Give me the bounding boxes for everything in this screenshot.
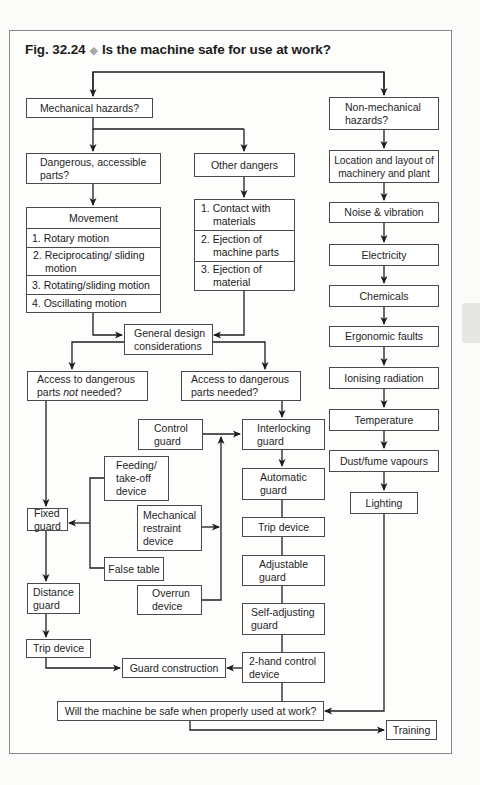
other-danger-item-2: 2. Ejection of machine parts: [195, 230, 294, 261]
node-ergonomic-faults: Ergonomic faults: [329, 326, 439, 347]
other-danger-item-1: 1. Contact with materials: [195, 200, 294, 230]
movement-item-4: 4. Oscillating motion: [27, 294, 160, 312]
node-chemicals: Chemicals: [329, 285, 439, 307]
node-two-hand-control-device: 2-hand control device: [242, 652, 325, 683]
node-dust-fume-vapours: Dust/fume vapours: [329, 450, 439, 472]
node-distance-guard: Distance guard: [27, 583, 80, 614]
movement-header: Movement: [27, 208, 160, 228]
other-danger-item-3: 3. Ejection of material: [195, 261, 294, 290]
node-feeding-takeoff-device: Feeding/ take-off device: [104, 456, 169, 501]
node-access-needed: Access to dangerous parts needed?: [181, 371, 301, 401]
node-self-adjusting-guard: Self-adjusting guard: [242, 603, 325, 635]
node-noise-vibration: Noise & vibration: [329, 202, 439, 223]
node-dangerous-accessible-parts: Dangerous, accessible parts?: [26, 153, 161, 184]
movement-item-1: 1. Rotary motion: [27, 228, 160, 247]
node-interlocking-guard: Interlocking guard: [242, 419, 325, 450]
node-temperature: Temperature: [329, 409, 439, 431]
access-not-needed-text: Access to dangerous parts not needed?: [37, 373, 142, 399]
node-other-dangers: Other dangers: [194, 153, 295, 177]
other-dangers-list: 1. Contact with materials 2. Ejection of…: [194, 199, 295, 291]
node-trip-device-left: Trip device: [26, 639, 91, 658]
node-fixed-guard: Fixed guard: [27, 508, 68, 531]
node-general-design: General design considerations: [124, 324, 213, 355]
movement-table: Movement 1. Rotary motion 2. Reciprocati…: [26, 207, 161, 313]
node-ionising-radiation: Ionising radiation: [329, 367, 439, 389]
node-lighting: Lighting: [350, 492, 418, 514]
node-access-not-needed: Access to dangerous parts not needed?: [27, 371, 148, 401]
node-false-table: False table: [104, 557, 164, 581]
node-adjustable-guard: Adjustable guard: [242, 555, 325, 586]
node-overrun-device: Overrun device: [137, 585, 202, 615]
node-non-mechanical-hazards: Non-mechanical hazards?: [329, 97, 439, 130]
node-automatic-guard: Automatic guard: [242, 468, 325, 500]
movement-item-3: 3. Rotating/sliding motion: [27, 275, 160, 294]
movement-item-2: 2. Reciprocating/ sliding motion: [27, 247, 160, 275]
node-control-guard: Control guard: [138, 419, 203, 450]
node-training: Training: [386, 720, 437, 740]
node-mechanical-hazards: Mechanical hazards?: [26, 98, 153, 118]
node-electricity: Electricity: [329, 244, 439, 266]
node-mechanical-restraint-device: Mechanical restraint device: [137, 505, 202, 551]
node-guard-construction: Guard construction: [122, 658, 226, 678]
node-trip-device-right: Trip device: [242, 517, 325, 537]
node-location-layout: Location and layout of machinery and pla…: [329, 150, 439, 183]
node-safe-question: Will the machine be safe when properly u…: [57, 701, 324, 721]
